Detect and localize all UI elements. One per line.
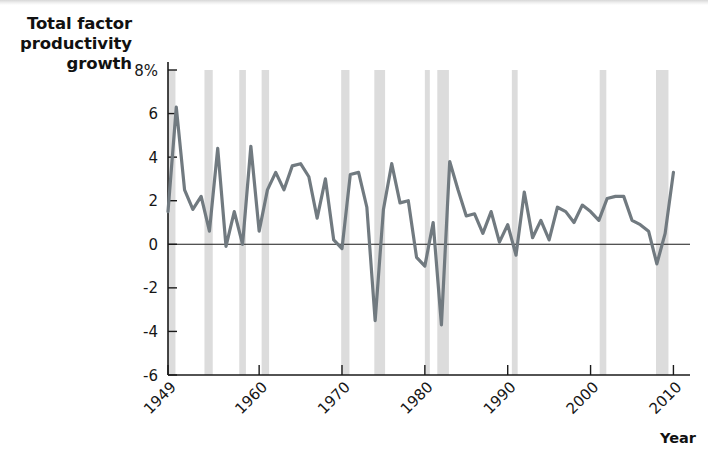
chart-page: Total factor productivity growth 8%6420-… [0,0,708,454]
x-axis-title: Year [660,430,696,446]
recession-band [425,70,430,375]
y-tick-label: -2 [143,279,158,297]
y-tick-label: 6 [148,105,158,123]
recession-band [262,70,269,375]
x-tick-label: 1960 [231,378,271,418]
y-tick-label: 0 [148,236,158,254]
y-tick-label: 2 [148,192,158,210]
x-tick-label: 1990 [480,378,520,418]
y-tick-label: 4 [148,149,158,167]
y-tick-label: 8% [134,62,158,80]
recession-band [600,70,607,375]
x-tick-label: 1970 [314,378,354,418]
recession-band [512,70,518,375]
x-tick-label: 1980 [397,378,437,418]
line-chart-plot: 8%6420-2-4-6 194919601970198019902000201… [0,0,708,454]
x-tick-label: 2010 [646,378,686,418]
x-axis-tick-labels: 1949196019701980199020002010 [140,378,685,418]
y-tick-label: -6 [143,367,158,385]
x-tick-label: 2000 [563,378,603,418]
y-axis-tick-labels: 8%6420-2-4-6 [134,62,158,385]
y-tick-label: -4 [143,323,158,341]
